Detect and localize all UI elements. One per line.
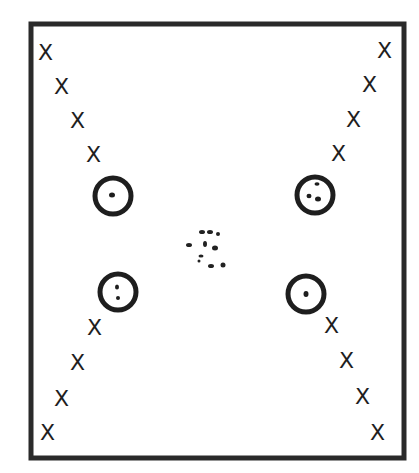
x-mark: X xyxy=(54,74,69,99)
x-marks-lower-right: X X X X xyxy=(324,313,385,445)
x-mark: X xyxy=(86,142,101,167)
circle-upper-right xyxy=(297,177,333,213)
x-mark: X xyxy=(346,107,361,132)
dot xyxy=(307,194,312,198)
circle-upper-left xyxy=(95,178,131,214)
x-marks-upper-left: X X X X xyxy=(38,40,101,167)
x-mark: X xyxy=(362,72,377,97)
dot xyxy=(115,285,119,290)
dot xyxy=(116,296,120,300)
x-mark: X xyxy=(339,348,354,373)
border-frame xyxy=(31,24,404,458)
x-mark: X xyxy=(70,108,85,133)
x-mark: X xyxy=(70,350,85,375)
dot xyxy=(304,291,309,297)
center-dot-cluster xyxy=(186,230,226,268)
circle-lower-right xyxy=(288,276,324,312)
x-mark: X xyxy=(54,386,69,411)
x-mark: X xyxy=(331,141,346,166)
x-marks-upper-right: X X X X xyxy=(331,38,392,166)
dot xyxy=(109,193,115,198)
x-mark: X xyxy=(324,313,339,338)
x-mark: X xyxy=(87,315,102,340)
dot xyxy=(315,182,320,186)
dot xyxy=(315,197,321,202)
x-mark: X xyxy=(370,420,385,445)
x-mark: X xyxy=(38,40,53,65)
circle-lower-left xyxy=(100,274,136,310)
x-marks-lower-left: X X X X xyxy=(40,315,102,445)
diagram-canvas: X X X X X X X X X X X X X X X X xyxy=(0,0,419,473)
x-mark: X xyxy=(377,38,392,63)
x-mark: X xyxy=(40,420,55,445)
x-mark: X xyxy=(355,384,370,409)
